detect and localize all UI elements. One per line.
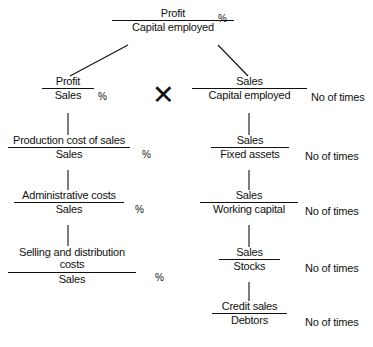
node-right-1-numerator: Sales xyxy=(192,76,307,87)
node-left-1-numerator: Profit xyxy=(42,76,94,87)
connector-root-to-left xyxy=(70,45,128,76)
node-left-2-numerator: Production cost of sales xyxy=(8,135,130,146)
node-left-3-numerator: Administrative costs xyxy=(14,190,124,201)
node-left-1-unit: % xyxy=(98,91,107,102)
node-right-3-numerator: Sales xyxy=(200,190,298,201)
node-right-sales-to-stocks: Sales Stocks xyxy=(219,247,280,273)
node-right-5-numerator: Credit sales xyxy=(212,301,287,312)
node-right-2-numerator: Sales xyxy=(211,135,289,146)
node-root-denominator: Capital employed xyxy=(112,22,234,33)
node-right-1-denominator: Capital employed xyxy=(192,90,307,101)
node-root-numerator: Profit xyxy=(112,8,234,19)
node-left-4-unit: % xyxy=(155,272,164,283)
node-left-3-denominator: Sales xyxy=(14,204,124,215)
node-right-5-denominator: Debtors xyxy=(212,315,287,326)
node-right-1-unit: No of times xyxy=(311,91,364,103)
node-left-3-unit: % xyxy=(135,204,144,215)
node-right-sales-to-fixed-assets: Sales Fixed assets xyxy=(211,135,289,161)
node-right-4-unit: No of times xyxy=(305,262,358,274)
node-left-profit-to-sales: Profit Sales xyxy=(42,76,94,102)
node-root-unit: % xyxy=(218,13,227,24)
node-left-2-denominator: Sales xyxy=(8,149,130,160)
node-left-administrative-costs-to-sales: Administrative costs Sales xyxy=(14,190,124,216)
node-right-4-numerator: Sales xyxy=(219,247,280,258)
node-left-4-numerator: Selling and distribution costs xyxy=(8,246,136,271)
node-left-4-denominator: Sales xyxy=(8,274,136,285)
node-right-3-unit: No of times xyxy=(305,205,358,217)
multiplication-icon: ✕ xyxy=(152,82,175,109)
ratio-pyramid-diagram: Profit Capital employed % ✕ Profit Sales… xyxy=(0,0,373,347)
node-right-credit-sales-to-debtors: Credit sales Debtors xyxy=(212,301,287,327)
connector-root-to-right xyxy=(218,45,248,76)
node-right-sales-to-working-capital: Sales Working capital xyxy=(200,190,298,216)
node-root-return-on-capital-employed: Profit Capital employed xyxy=(112,8,234,34)
node-right-2-denominator: Fixed assets xyxy=(211,149,289,160)
node-left-selling-distribution-costs-to-sales: Selling and distribution costs Sales xyxy=(8,246,136,285)
node-left-2-unit: % xyxy=(142,149,151,160)
node-right-4-denominator: Stocks xyxy=(219,261,280,272)
node-right-2-unit: No of times xyxy=(305,150,358,162)
node-right-3-denominator: Working capital xyxy=(200,204,298,215)
node-left-1-denominator: Sales xyxy=(42,90,94,101)
connector-lines xyxy=(0,0,373,347)
node-right-5-unit: No of times xyxy=(305,316,358,328)
node-left-production-cost-to-sales: Production cost of sales Sales xyxy=(8,135,130,161)
node-right-sales-to-capital-employed: Sales Capital employed xyxy=(192,76,307,102)
